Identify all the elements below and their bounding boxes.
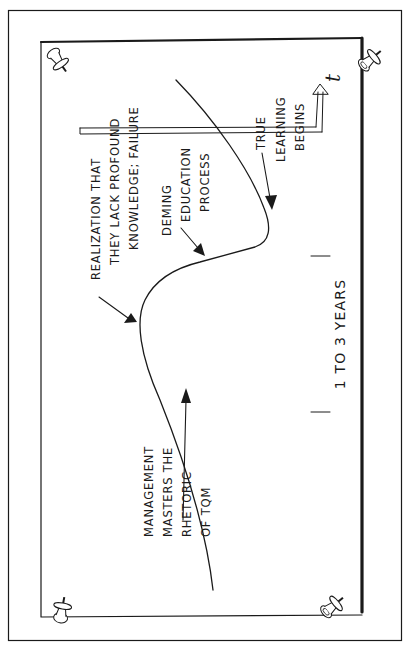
annotation-line: OF TQM	[199, 487, 213, 537]
annotation-line: MANAGEMENT	[142, 446, 156, 537]
annotation-line: EDUCATION	[179, 147, 193, 222]
annotation-rhetoric: MANAGEMENT MASTERS THE RHETORIC OF TQM	[142, 446, 213, 537]
annotation-line: MASTERS THE	[161, 447, 175, 537]
annotation-true-learning: TRUE LEARNING BEGINS	[254, 97, 307, 162]
annotation-line: BEGINS	[293, 103, 307, 151]
annotation-line: RHETORIC	[180, 471, 194, 537]
time-axis-label: t	[321, 73, 345, 82]
annotation-line: TRUE	[254, 116, 268, 151]
diagram-canvas: t 1 TO 3 YEARS MANAGEMENT MASTERS THE RH…	[0, 0, 410, 651]
pushpin-icon	[51, 596, 73, 625]
pushpin-icon	[44, 45, 74, 77]
annotation-line: PROCESS	[198, 153, 212, 212]
annotation-line: LEARNING	[274, 97, 288, 162]
annotation-line: THEY LACK PROFOUND	[108, 118, 122, 266]
duration-label: 1 TO 3 YEARS	[332, 279, 348, 390]
pushpin-icon	[355, 44, 386, 75]
annotation-deming: DEMING EDUCATION PROCESS	[160, 147, 212, 236]
time-axis-arrowhead	[313, 84, 328, 94]
annotation-line: REALIZATION THAT	[89, 158, 103, 280]
pushpin-icon	[317, 591, 348, 622]
annotation-realization: REALIZATION THAT THEY LACK PROFOUND KNOW…	[89, 106, 141, 280]
time-axis	[311, 84, 330, 412]
annotation-line: KNOWLEDGE; FAILURE	[127, 106, 141, 250]
annotation-line: DEMING	[160, 184, 174, 236]
